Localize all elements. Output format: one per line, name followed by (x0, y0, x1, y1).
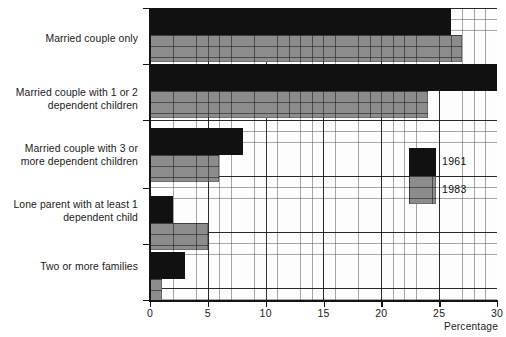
x-axis-tick-label: 15 (317, 307, 329, 319)
bar-1961-group-3 (150, 128, 243, 155)
legend-item-1983: 1983 (409, 176, 497, 204)
y-axis-tick (143, 188, 150, 189)
x-axis-tick-label: 20 (375, 307, 387, 319)
bar-1983-group-2 (150, 91, 428, 118)
legend-item-1961: 1961 (409, 148, 497, 176)
x-axis-title: Percentage (444, 321, 498, 332)
legend: 1961 1983 (409, 148, 497, 204)
legend-label-1961: 1961 (442, 155, 467, 167)
y-axis-line (149, 8, 151, 301)
x-axis-tick-label: 0 (147, 307, 153, 319)
bar-1961-group-4 (150, 196, 173, 223)
bar-1961-group-5 (150, 252, 185, 279)
bar-1983-group-1 (150, 35, 462, 62)
y-axis-tick (143, 244, 150, 245)
category-label-two-or-more-families: Two or more families (0, 260, 144, 273)
legend-swatch-1983 (409, 176, 436, 204)
category-label-lone-parent: Lone parent with at least 1 dependent ch… (0, 198, 144, 224)
category-label-married-couple-only: Married couple only (0, 32, 144, 45)
category-label-married-couple-3-or-more-children: Married couple with 3 or more dependent … (0, 142, 144, 168)
x-axis-tick-label: 25 (433, 307, 445, 319)
x-axis-tick-label: 10 (260, 307, 272, 319)
legend-swatch-1961 (409, 148, 436, 176)
bar-1983-group-4 (150, 223, 208, 250)
y-axis-tick (143, 64, 150, 65)
category-label-group: Married couple only Married couple with … (0, 8, 144, 300)
legend-label-1983: 1983 (442, 183, 467, 195)
x-axis-tick-label: 5 (205, 307, 211, 319)
bar-1983-group-5 (150, 279, 162, 300)
bar-chart: Married couple only Married couple with … (0, 0, 506, 337)
x-axis-tick-label: 30 (491, 307, 503, 319)
y-axis-tick (143, 8, 150, 9)
bar-1983-group-3 (150, 155, 219, 182)
bar-1961-group-2 (150, 64, 497, 91)
y-axis-tick (143, 300, 150, 301)
y-axis-tick (143, 120, 150, 121)
bar-1961-group-1 (150, 8, 451, 35)
category-label-married-couple-1-or-2-children: Married couple with 1 or 2 dependent chi… (0, 86, 144, 112)
